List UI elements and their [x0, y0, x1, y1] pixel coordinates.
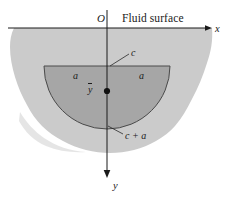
fluid-pressure-diagram: O Fluid surface x y c a a c + a y: [0, 0, 226, 205]
origin-label: O: [97, 13, 105, 24]
depth-c-label: c: [131, 48, 135, 58]
y-axis-label: y: [113, 181, 118, 192]
half-width-right-label: a: [139, 71, 144, 81]
centroid-dot: [104, 88, 110, 94]
half-width-left-label: a: [73, 71, 78, 81]
centroid-label-text: y: [88, 84, 92, 95]
fluid-surface-label: Fluid surface: [122, 13, 184, 25]
overbar-mark: [88, 83, 92, 84]
x-axis-label: x: [215, 24, 220, 35]
diagram-canvas: [0, 0, 226, 205]
centroid-label: y: [88, 85, 92, 95]
y-axis-arrowhead: [104, 170, 111, 178]
depth-c-plus-a-label: c + a: [125, 131, 146, 141]
